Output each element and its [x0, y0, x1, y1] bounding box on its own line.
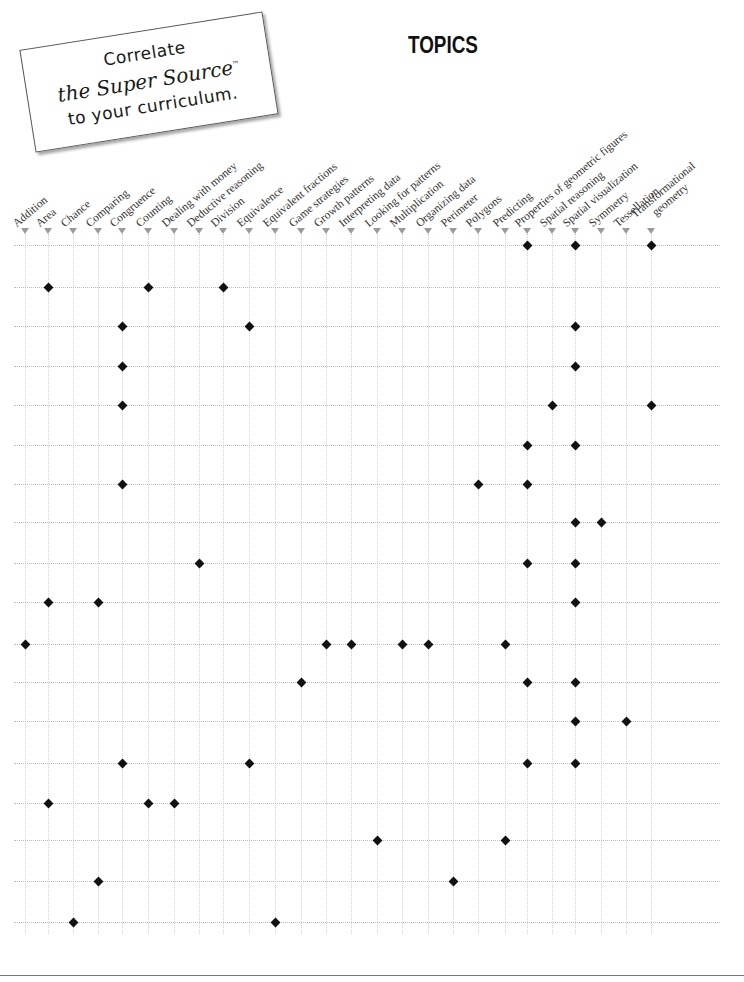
down-arrow-icon: [398, 228, 406, 234]
grid-row-line: [14, 881, 720, 882]
down-arrow-icon: [474, 228, 482, 234]
correlation-marker-icon: [646, 240, 656, 250]
correlation-marker-icon: [218, 282, 228, 292]
down-arrow-icon: [322, 228, 330, 234]
correlation-marker-icon: [117, 479, 127, 489]
grid-column-line: [428, 234, 429, 934]
grid-column-line: [402, 234, 403, 934]
down-arrow-icon: [571, 228, 579, 234]
correlation-marker-icon: [321, 639, 331, 649]
correlation-marker-icon: [500, 639, 510, 649]
grid-column-line: [249, 234, 250, 934]
correlation-marker-icon: [570, 758, 580, 768]
correlation-marker-icon: [547, 400, 557, 410]
correlation-marker-icon: [423, 639, 433, 649]
correlation-marker-icon: [43, 597, 53, 607]
down-arrow-icon: [597, 228, 605, 234]
correlation-marker-icon: [43, 282, 53, 292]
down-arrow-icon: [144, 228, 152, 234]
correlation-marker-icon: [20, 639, 30, 649]
trademark-symbol: ™: [232, 60, 240, 69]
correlation-marker-icon: [270, 917, 280, 927]
grid-column-line: [326, 234, 327, 934]
correlation-marker-icon: [570, 321, 580, 331]
grid-row-line: [14, 366, 720, 367]
correlation-marker-icon: [346, 639, 356, 649]
grid-row-line: [14, 484, 720, 485]
grid-column-line: [301, 234, 302, 934]
callout-box: Correlate the Super Source™ to your curr…: [19, 11, 278, 152]
correlation-marker-icon: [522, 758, 532, 768]
correlation-marker-icon: [570, 597, 580, 607]
down-arrow-icon: [622, 228, 630, 234]
grid-row-line: [14, 763, 720, 764]
grid-column-line: [122, 234, 123, 934]
down-arrow-icon: [424, 228, 432, 234]
grid-column-line: [199, 234, 200, 934]
down-arrow-icon: [21, 228, 29, 234]
down-arrow-icon: [373, 228, 381, 234]
down-arrow-icon: [647, 228, 655, 234]
correlation-marker-icon: [570, 716, 580, 726]
correlation-marker-icon: [500, 835, 510, 845]
correlation-marker-icon: [43, 798, 53, 808]
correlation-marker-icon: [522, 677, 532, 687]
grid-column-line: [351, 234, 352, 934]
correlation-marker-icon: [570, 361, 580, 371]
correlation-marker-icon: [621, 716, 631, 726]
down-arrow-icon: [347, 228, 355, 234]
grid-column-line: [148, 234, 149, 934]
grid-row-line: [14, 922, 720, 923]
correlation-marker-icon: [194, 558, 204, 568]
down-arrow-icon: [523, 228, 531, 234]
correlation-marker-icon: [448, 876, 458, 886]
correlation-marker-icon: [570, 517, 580, 527]
down-arrow-icon: [94, 228, 102, 234]
correlation-marker-icon: [522, 240, 532, 250]
down-arrow-icon: [219, 228, 227, 234]
grid-row-line: [14, 445, 720, 446]
down-arrow-icon: [501, 228, 509, 234]
down-arrow-icon: [170, 228, 178, 234]
grid-column-line: [626, 234, 627, 934]
grid-column-line: [98, 234, 99, 934]
correlation-marker-icon: [372, 835, 382, 845]
grid-column-line: [223, 234, 224, 934]
correlation-marker-icon: [570, 677, 580, 687]
grid-column-line: [174, 234, 175, 934]
correlation-grid: [0, 0, 744, 982]
correlation-marker-icon: [68, 917, 78, 927]
correlation-marker-icon: [117, 758, 127, 768]
grid-row-line: [14, 245, 720, 246]
down-arrow-icon: [548, 228, 556, 234]
down-arrow-icon: [195, 228, 203, 234]
down-arrow-icon: [271, 228, 279, 234]
correlation-marker-icon: [522, 558, 532, 568]
grid-row-line: [14, 682, 720, 683]
correlation-marker-icon: [93, 876, 103, 886]
grid-row-line: [14, 563, 720, 564]
grid-row-line: [14, 644, 720, 645]
down-arrow-icon: [69, 228, 77, 234]
correlation-marker-icon: [570, 558, 580, 568]
correlation-marker-icon: [296, 677, 306, 687]
grid-column-line: [575, 234, 576, 934]
grid-row-line: [14, 326, 720, 327]
correlation-marker-icon: [570, 440, 580, 450]
grid-column-line: [275, 234, 276, 934]
grid-row-line: [14, 803, 720, 804]
grid-column-line: [505, 234, 506, 934]
correlation-marker-icon: [244, 321, 254, 331]
down-arrow-icon: [449, 228, 457, 234]
grid-row-line: [14, 721, 720, 722]
grid-column-line: [478, 234, 479, 934]
correlation-marker-icon: [596, 517, 606, 527]
correlation-marker-icon: [397, 639, 407, 649]
down-arrow-icon: [297, 228, 305, 234]
grid-column-line: [73, 234, 74, 934]
correlation-marker-icon: [522, 440, 532, 450]
correlation-marker-icon: [522, 479, 532, 489]
correlation-marker-icon: [646, 400, 656, 410]
grid-column-line: [527, 234, 528, 934]
down-arrow-icon: [118, 228, 126, 234]
